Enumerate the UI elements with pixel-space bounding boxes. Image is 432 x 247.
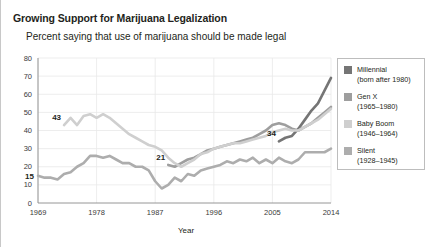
data-label-millennial: 34 <box>267 129 276 138</box>
y-tick-label: 40 <box>24 126 32 135</box>
y-tick-label: 10 <box>24 180 32 189</box>
legend-item-years: (born after 1980) <box>357 75 411 85</box>
y-tick-label: 80 <box>24 54 32 63</box>
x-tick-label: 1978 <box>88 208 105 217</box>
x-tick-label: 1969 <box>30 208 47 217</box>
x-tick-label: 2005 <box>264 208 281 217</box>
legend-item-years: (1946–1964) <box>357 129 398 139</box>
x-axis-ticks: 196919781987199620052014 <box>30 208 340 217</box>
series-line-millennial <box>279 78 331 141</box>
y-tick-label: 70 <box>24 72 32 81</box>
legend-item-years: (1928–1945) <box>357 156 398 166</box>
x-tick-label: 2014 <box>323 208 340 217</box>
legend-item-name: Silent <box>357 146 398 156</box>
y-tick-label: 50 <box>24 108 32 117</box>
y-tick-label: 30 <box>24 144 32 153</box>
legend-item-baby-boom[interactable]: Baby Boom(1946–1964) <box>344 119 398 138</box>
data-label-silent: 15 <box>25 172 34 181</box>
chart-legend: Millennial(born after 1980)Gen X(1965–19… <box>337 58 425 170</box>
series-line-silent <box>38 149 331 189</box>
legend-swatch-icon <box>344 147 352 155</box>
legend-item-name: Millennial <box>357 65 411 75</box>
gridlines <box>38 58 331 203</box>
legend-swatch-icon <box>344 66 352 74</box>
legend-swatch-icon <box>344 120 352 128</box>
y-tick-label: 60 <box>24 90 32 99</box>
y-axis-ticks: 01020304050607080 <box>24 54 32 208</box>
x-tick-label: 1996 <box>205 208 222 217</box>
legend-item-years: (1965–1980) <box>357 102 398 112</box>
legend-item-silent[interactable]: Silent(1928–1945) <box>344 146 398 165</box>
data-label-baby-boom: 43 <box>52 113 61 122</box>
legend-item-name: Baby Boom <box>357 119 398 129</box>
chart-container: Growing Support for Marijuana Legalizati… <box>0 0 432 247</box>
legend-item-millennial[interactable]: Millennial(born after 1980) <box>344 65 411 84</box>
legend-swatch-icon <box>344 93 352 101</box>
page-title: Growing Support for Marijuana Legalizati… <box>13 12 227 24</box>
y-tick-label: 0 <box>28 199 32 208</box>
chart-subtitle: Percent saying that use of marijuana sho… <box>26 31 286 42</box>
legend-item-name: Gen X <box>357 92 398 102</box>
x-axis-label: Year <box>178 226 195 235</box>
data-label-gen-x: 21 <box>156 153 165 162</box>
legend-item-gen-x[interactable]: Gen X(1965–1980) <box>344 92 398 111</box>
x-tick-label: 1987 <box>147 208 164 217</box>
y-tick-label: 20 <box>24 162 32 171</box>
